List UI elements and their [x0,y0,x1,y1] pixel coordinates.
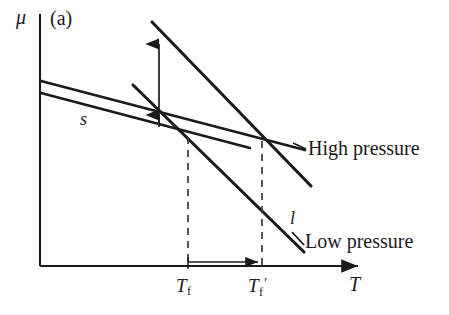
x-tick-label-tf: Tf [176,276,191,298]
tick-tfprime-prime: ′ [263,275,266,291]
y-axis-label: μ [16,7,26,27]
curve-label-liquid: l [290,209,295,227]
curve-liquid-high-pressure [152,22,311,186]
curve-solid-low-pressure [41,93,250,148]
x-axis-label: T [349,274,360,294]
x-tick-label-tf-prime: Tf′ [248,276,266,298]
figure-panel-a: μ (a) T Tf Tf′ s l High pressure Low pre… [0,0,449,315]
legend-label-low-pressure: Low pressure [305,231,413,251]
legend-label-high-pressure: High pressure [308,138,420,158]
panel-label: (a) [50,8,72,28]
curve-label-solid: s [80,110,87,128]
tick-tf-symbol: T [176,275,187,296]
tick-tfprime-symbol: T [248,275,259,296]
tick-tf-subscript: f [187,284,192,298]
